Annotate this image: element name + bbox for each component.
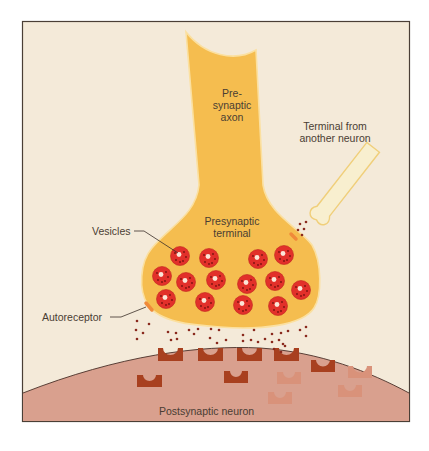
vesicle (177, 273, 196, 292)
vesicle (196, 293, 215, 312)
axon-label: Pre- synaptic axon (207, 87, 257, 123)
other-terminal-label-line: another neuron (295, 132, 375, 144)
axon-label-line: axon (207, 111, 257, 123)
vesicle (171, 247, 190, 266)
axon-label-line: Pre- (207, 87, 257, 99)
vesicle (200, 249, 219, 268)
terminal-label-line: Presynaptic (196, 215, 268, 227)
postsynaptic-label: Postsynaptic neuron (159, 405, 254, 417)
vesicle (207, 271, 226, 290)
vesicle (292, 281, 311, 300)
vesicle (266, 272, 285, 291)
vesicle (234, 296, 253, 315)
other-terminal-label: Terminal from another neuron (295, 120, 375, 144)
other-terminal-label-line: Terminal from (295, 120, 375, 132)
vesicle (249, 250, 268, 269)
vesicle (238, 275, 257, 294)
vesicles-label: Vesicles (92, 225, 131, 237)
vesicle (157, 290, 176, 309)
autoreceptor-label: Autoreceptor (42, 311, 102, 323)
terminal-label: Presynaptic terminal (196, 215, 268, 239)
terminal-label-line: terminal (196, 227, 268, 239)
vesicle (153, 267, 172, 286)
axon-label-line: synaptic (207, 99, 257, 111)
vesicle (269, 297, 288, 316)
vesicle (275, 246, 294, 265)
